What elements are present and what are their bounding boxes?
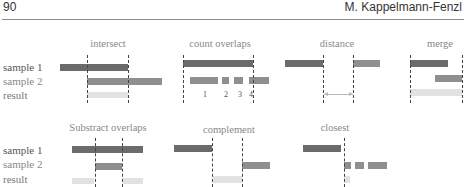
panel-title: complement	[203, 124, 255, 135]
dashed-guide	[212, 138, 213, 187]
panel-title: closest	[321, 122, 350, 133]
overlap-count: 2	[224, 90, 228, 99]
sample2-bar	[87, 78, 162, 85]
dashed-guide	[253, 55, 254, 103]
panel-title: count overlaps	[189, 38, 251, 49]
sample2-bar	[234, 77, 243, 84]
row-label-result-top: result	[3, 89, 27, 101]
overlap-count: 4	[249, 90, 253, 99]
distance-arrow-icon	[324, 94, 353, 95]
sample2-bar	[249, 77, 269, 84]
sample1-bar	[60, 64, 128, 71]
panel-title: Substract overlaps	[69, 122, 146, 133]
dashed-guide	[344, 138, 345, 187]
dashed-guide	[128, 55, 129, 103]
page-number: 90	[3, 0, 16, 14]
dashed-guide	[353, 55, 354, 103]
sample2-bar	[242, 162, 270, 169]
row-label-result-bottom: result	[3, 173, 27, 185]
sample1-bar	[183, 60, 253, 67]
sample2-bar	[435, 75, 462, 82]
sample1-bar	[303, 145, 341, 152]
dashed-guide	[242, 138, 243, 187]
overlap-count: 3	[238, 90, 242, 99]
sample2-bar	[368, 162, 387, 169]
dashed-guide	[87, 55, 88, 103]
panel-title: merge	[427, 38, 453, 49]
sample1-bar	[410, 60, 448, 67]
sample2-bar	[355, 162, 364, 169]
dashed-guide	[183, 55, 184, 103]
dashed-guide	[122, 138, 123, 187]
running-author: M. Kappelmann-Fenzl	[345, 0, 462, 14]
dashed-guide	[95, 138, 96, 187]
sample1-bar	[72, 146, 143, 153]
row-label-sample2-bottom: sample 2	[3, 158, 42, 170]
overlap-count: 1	[203, 90, 207, 99]
sample2-bar	[190, 77, 218, 84]
sample1-bar	[174, 145, 212, 152]
sample2-bar	[353, 60, 380, 67]
result-bar	[213, 176, 242, 183]
dashed-guide	[410, 55, 411, 103]
result-bar	[72, 178, 94, 184]
result-bar	[87, 92, 128, 98]
sample2-bar	[95, 163, 122, 170]
result-bar	[410, 89, 462, 96]
sample1-bar	[285, 60, 323, 67]
dashed-guide	[462, 55, 463, 103]
panel-title: distance	[320, 38, 354, 49]
row-label-sample2-top: sample 2	[3, 75, 42, 87]
header-rule	[2, 19, 464, 20]
row-label-sample1-bottom: sample 1	[3, 144, 42, 156]
result-bar	[123, 178, 143, 184]
sample2-bar	[344, 162, 351, 169]
sample2-bar	[222, 77, 229, 84]
row-label-sample1-top: sample 1	[3, 61, 42, 73]
panel-title: intersect	[90, 38, 126, 49]
